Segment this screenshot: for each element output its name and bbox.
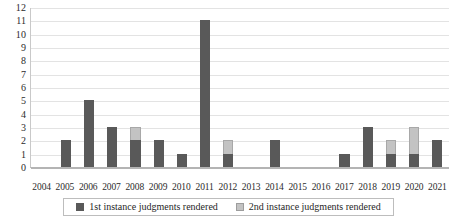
y-axis-tick: 0 <box>21 163 26 173</box>
y-axis-tick: 12 <box>16 3 26 13</box>
bar-stack[interactable] <box>200 20 210 167</box>
bar-slot[interactable] <box>77 8 100 167</box>
y-axis-tick: 3 <box>21 123 26 133</box>
legend-item[interactable]: 1st instance judgments rendered <box>76 202 218 212</box>
bar-slot[interactable] <box>31 8 54 167</box>
x-axis-tick: 2021 <box>426 182 449 192</box>
bar-segment-series-2[interactable] <box>223 140 233 153</box>
bar-slot[interactable] <box>426 8 449 167</box>
bar-segment-series-1[interactable] <box>130 140 140 167</box>
x-axis: 2004200520062007200820092010201120122013… <box>30 182 449 192</box>
bar-stack[interactable] <box>432 140 442 167</box>
bar-slot[interactable] <box>170 8 193 167</box>
bar-slot[interactable] <box>217 8 240 167</box>
bar-segment-series-1[interactable] <box>223 154 233 167</box>
legend-item[interactable]: 2nd instance judgments rendered <box>236 202 381 212</box>
bar-segment-series-2[interactable] <box>130 127 140 140</box>
bar-segment-series-1[interactable] <box>84 100 94 167</box>
x-axis-tick: 2014 <box>263 182 286 192</box>
x-axis-tick: 2008 <box>123 182 146 192</box>
bar-stack[interactable] <box>130 127 140 167</box>
y-axis-tick: 8 <box>21 56 26 66</box>
x-axis-tick: 2004 <box>30 182 53 192</box>
bar-slot[interactable] <box>310 8 333 167</box>
gridline <box>31 168 449 169</box>
x-axis-tick: 2019 <box>379 182 402 192</box>
bar-stack[interactable] <box>409 127 419 167</box>
y-axis-tick: 7 <box>21 70 26 80</box>
y-axis-tick: 1 <box>21 150 26 160</box>
legend-label: 1st instance judgments rendered <box>89 202 218 212</box>
y-axis-tick: 11 <box>16 16 26 26</box>
y-axis: 1211109876543210 <box>4 8 30 168</box>
x-axis-tick: 2018 <box>356 182 379 192</box>
x-axis-tick: 2020 <box>403 182 426 192</box>
x-axis-tick: 2011 <box>193 182 216 192</box>
bar-segment-series-2[interactable] <box>409 127 419 154</box>
plot-area <box>30 8 449 168</box>
bar-segment-series-1[interactable] <box>107 127 117 167</box>
bar-stack[interactable] <box>386 140 396 167</box>
bar-slot[interactable] <box>54 8 77 167</box>
bar-slot[interactable] <box>263 8 286 167</box>
bar-segment-series-1[interactable] <box>177 154 187 167</box>
x-axis-tick: 2017 <box>333 182 356 192</box>
legend-wrapper: 1st instance judgments rendered2nd insta… <box>0 192 457 216</box>
x-axis-tick: 2012 <box>216 182 239 192</box>
plot-block: 1211109876543210 <box>4 8 449 180</box>
bar-stack[interactable] <box>177 154 187 167</box>
bar-segment-series-2[interactable] <box>386 140 396 153</box>
x-axis-tick: 2009 <box>146 182 169 192</box>
y-axis-tick: 4 <box>21 110 26 120</box>
chart-legend: 1st instance judgments rendered2nd insta… <box>63 198 393 216</box>
bar-stack[interactable] <box>154 140 164 167</box>
bar-series-group <box>31 8 449 167</box>
y-axis-tick: 5 <box>21 96 26 106</box>
bar-stack[interactable] <box>270 140 280 167</box>
bar-segment-series-1[interactable] <box>270 140 280 167</box>
bar-segment-series-1[interactable] <box>339 154 349 167</box>
bar-slot[interactable] <box>194 8 217 167</box>
x-axis-tick: 2015 <box>286 182 309 192</box>
bar-slot[interactable] <box>333 8 356 167</box>
x-axis-tick: 2006 <box>77 182 100 192</box>
bar-segment-series-1[interactable] <box>432 140 442 167</box>
bar-stack[interactable] <box>61 140 71 167</box>
bar-stack[interactable] <box>339 154 349 167</box>
y-axis-tick: 10 <box>16 30 26 40</box>
bar-slot[interactable] <box>101 8 124 167</box>
bar-segment-series-1[interactable] <box>154 140 164 167</box>
bar-slot[interactable] <box>286 8 309 167</box>
legend-swatch-icon <box>76 203 84 211</box>
bar-stack[interactable] <box>223 140 233 167</box>
y-axis-tick: 2 <box>21 136 26 146</box>
y-axis-tick: 9 <box>21 43 26 53</box>
x-axis-tick: 2005 <box>53 182 76 192</box>
legend-label: 2nd instance judgments rendered <box>249 202 381 212</box>
bar-slot[interactable] <box>379 8 402 167</box>
bar-slot[interactable] <box>356 8 379 167</box>
bar-slot[interactable] <box>124 8 147 167</box>
bar-stack[interactable] <box>363 127 373 167</box>
bar-stack[interactable] <box>107 127 117 167</box>
bar-segment-series-1[interactable] <box>200 20 210 167</box>
bar-slot[interactable] <box>147 8 170 167</box>
bar-segment-series-1[interactable] <box>409 154 419 167</box>
bar-segment-series-1[interactable] <box>386 154 396 167</box>
legend-swatch-icon <box>236 203 244 211</box>
bar-slot[interactable] <box>403 8 426 167</box>
x-axis-tick: 2013 <box>240 182 263 192</box>
bar-stack[interactable] <box>84 100 94 167</box>
x-axis-tick: 2007 <box>100 182 123 192</box>
x-axis-tick: 2016 <box>309 182 332 192</box>
bar-chart: 1211109876543210 20042005200620072008200… <box>0 0 457 220</box>
bar-slot[interactable] <box>240 8 263 167</box>
bar-segment-series-1[interactable] <box>61 140 71 167</box>
bar-segment-series-1[interactable] <box>363 127 373 167</box>
x-axis-tick: 2010 <box>170 182 193 192</box>
y-axis-tick: 6 <box>21 83 26 93</box>
